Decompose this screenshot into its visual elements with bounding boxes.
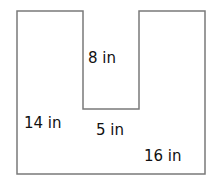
- label-notch-depth: 8 in: [88, 49, 116, 67]
- label-left-height: 14 in: [24, 114, 62, 132]
- label-bottom-width: 16 in: [144, 147, 182, 165]
- label-notch-width: 5 in: [96, 121, 124, 139]
- shape-canvas: 8 in 14 in 5 in 16 in: [0, 0, 218, 182]
- composite-shape-figure: 8 in 14 in 5 in 16 in: [0, 0, 218, 182]
